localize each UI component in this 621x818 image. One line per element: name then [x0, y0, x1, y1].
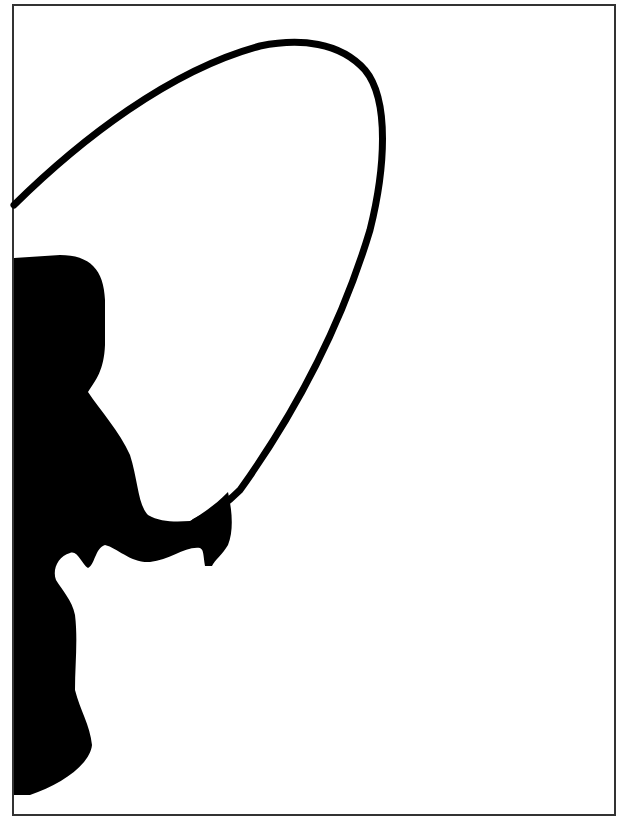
jump-rope-silhouette	[0, 0, 621, 818]
person-silhouette	[14, 255, 232, 795]
